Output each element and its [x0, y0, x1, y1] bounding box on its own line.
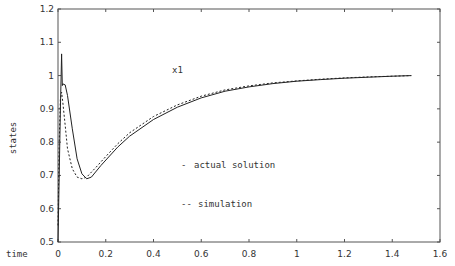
x-tick-label: 1 [294, 249, 300, 259]
y-axis: 0.50.60.70.80.911.11.2 [40, 4, 440, 247]
x-tick-label: 0 [55, 249, 61, 259]
x-tick-label: 0.4 [146, 249, 161, 259]
chart-title: x1 [172, 65, 183, 75]
x-tick-label: 0.6 [194, 249, 209, 259]
x-axis: 00.20.40.60.811.21.41.6 [55, 9, 447, 259]
legend-label-actual: actual solution [194, 160, 275, 170]
y-tick-label: 0.6 [40, 204, 55, 214]
y-tick-label: 1 [48, 71, 54, 81]
legend: - actual solution -- simulation [181, 160, 275, 209]
legend-label-simulation: simulation [198, 199, 252, 209]
x-tick-label: 0.2 [99, 249, 113, 259]
y-tick-label: 0.9 [40, 104, 55, 114]
y-tick-label: 0.7 [40, 170, 54, 180]
legend-marker-actual: - [181, 160, 186, 170]
x-tick-label: 1.4 [385, 249, 400, 259]
series-layer [58, 54, 411, 242]
x-tick-label: 1.2 [337, 249, 351, 259]
y-tick-label: 0.8 [40, 137, 55, 147]
y-tick-label: 1.1 [40, 37, 54, 47]
legend-marker-simulation: -- [181, 199, 192, 209]
y-tick-label: 1.2 [40, 4, 54, 14]
x-axis-label: time [6, 249, 28, 259]
series-actual-solution [58, 54, 411, 242]
y-tick-label: 0.5 [40, 237, 54, 247]
x-tick-label: 0.8 [242, 249, 257, 259]
y-axis-label: states [8, 122, 18, 155]
line-chart: 0.50.60.70.80.911.11.2 00.20.40.60.811.2… [0, 0, 455, 266]
x-tick-label: 1.6 [433, 249, 448, 259]
